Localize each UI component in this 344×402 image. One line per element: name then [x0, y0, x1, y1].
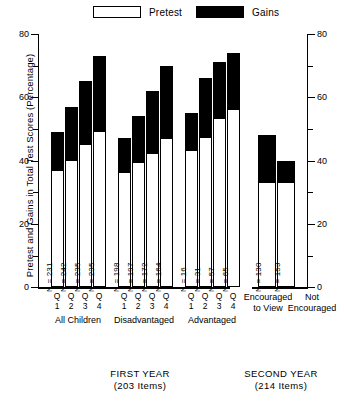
y-tick-right-0 — [308, 287, 315, 288]
x-tick-sub-label: 1 — [117, 302, 131, 312]
bar-advantaged-q3 — [213, 62, 226, 287]
y-tick-label-left-40: 40 — [15, 157, 29, 166]
bar-gain-advantaged-q3 — [213, 62, 226, 119]
category-label-not-encouraged: Not Encouraged — [284, 292, 340, 314]
n-label-not-encouraged: N = 153 — [273, 262, 282, 292]
y-minor-tick-left-50 — [33, 129, 38, 130]
y-tick-label-left-60: 60 — [15, 93, 29, 102]
y-tick-left-0 — [31, 287, 38, 288]
bar-gain-all-children-q2 — [65, 107, 78, 161]
n-label-all-children-q3: N = 235 — [73, 262, 82, 292]
x-tick-all-children-q2: Q 2 — [64, 292, 78, 311]
x-tick-disadvantaged-q3: Q 3 — [145, 292, 159, 311]
y-tick-label-right-60: 60 — [317, 93, 327, 102]
bar-disadvantaged-q3 — [146, 91, 159, 287]
y-tick-right-80 — [308, 34, 315, 35]
y-tick-left-80 — [31, 34, 38, 35]
bar-all-children-q3 — [79, 81, 92, 287]
n-label-advantaged-q4: N = 65 — [221, 267, 230, 292]
chart-legend: Pretest Gains — [0, 4, 344, 26]
y-minor-tick-right-10 — [308, 256, 313, 257]
category-label-line2: Encouraged — [284, 303, 340, 314]
category-label-line1: Not — [284, 292, 340, 303]
y-tick-label-left-20: 20 — [15, 220, 29, 229]
panel-caption-subtitle: (203 Items) — [85, 380, 195, 392]
panel-caption-second-year: SECOND YEAR (214 Items) — [222, 368, 340, 392]
bar-gain-advantaged-q4 — [227, 53, 240, 110]
bar-advantaged-q1 — [185, 113, 198, 287]
n-label-all-children-q2: N = 242 — [59, 262, 68, 292]
n-label-disadvantaged-q4: N = 164 — [154, 262, 163, 292]
y-axis-left-line — [38, 34, 39, 288]
x-tick-sub-label: 3 — [145, 302, 159, 312]
y-minor-tick-right-50 — [308, 129, 313, 130]
bar-gain-all-children-q1 — [51, 132, 64, 171]
n-label-advantaged-q1: N = 16 — [179, 267, 188, 292]
x-tick-sub-label: 1 — [184, 302, 198, 312]
y-tick-label-right-80: 80 — [317, 30, 327, 39]
y-tick-left-20 — [31, 224, 38, 225]
y-minor-tick-right-70 — [308, 66, 313, 67]
x-tick-sub-label: 1 — [50, 302, 64, 312]
x-tick-sub-label: 3 — [78, 302, 92, 312]
n-label-encouraged-to-view: N = 130 — [254, 262, 263, 292]
y-tick-label-right-0: 0 — [317, 283, 322, 292]
legend-item-gains: Gains — [196, 6, 279, 18]
bar-gain-disadvantaged-q3 — [146, 91, 159, 154]
y-tick-label-right-20: 20 — [317, 220, 327, 229]
bar-gain-all-children-q3 — [79, 81, 92, 145]
bar-gain-all-children-q4 — [93, 56, 106, 132]
x-tick-all-children-q3: Q 3 — [78, 292, 92, 311]
y-minor-tick-left-70 — [33, 66, 38, 67]
n-label-all-children-q1: N = 231 — [45, 262, 54, 292]
y-minor-tick-left-30 — [33, 192, 38, 193]
legend-item-pretest: Pretest — [93, 6, 182, 18]
legend-swatch-pretest — [93, 6, 141, 18]
x-tick-sub-label: 4 — [92, 302, 106, 312]
x-tick-advantaged-q3: Q 3 — [212, 292, 226, 311]
n-label-disadvantaged-q2: N = 197 — [126, 262, 135, 292]
panel-caption-subtitle: (214 Items) — [222, 380, 340, 392]
bar-gain-encouraged-to-view — [258, 135, 276, 183]
x-tick-sub-label: 3 — [212, 302, 226, 312]
chart-figure: Pretest Gains Pretest and Gains in Total… — [0, 0, 344, 402]
y-tick-label-left-80: 80 — [15, 30, 29, 39]
legend-swatch-gains — [196, 6, 244, 18]
bar-gain-disadvantaged-q4 — [160, 66, 173, 139]
x-tick-sub-label: 2 — [198, 302, 212, 312]
group-label-advantaged: Advantaged — [172, 315, 252, 325]
n-label-all-children-q4: N = 235 — [87, 262, 96, 292]
n-label-advantaged-q2: N = 31 — [193, 267, 202, 292]
n-label-disadvantaged-q1: N = 198 — [112, 262, 121, 292]
x-tick-sub-label: 2 — [64, 302, 78, 312]
x-tick-all-children-q1: Q 1 — [50, 292, 64, 311]
y-tick-label-left-0: 0 — [15, 283, 29, 292]
bar-advantaged-q2 — [199, 78, 212, 287]
y-tick-right-40 — [308, 161, 315, 162]
panel-caption-title: SECOND YEAR — [222, 368, 340, 380]
x-tick-sub-label: 4 — [159, 302, 173, 312]
y-tick-label-right-40: 40 — [317, 157, 327, 166]
bar-gain-advantaged-q1 — [185, 113, 198, 151]
annotation-dot-advantaged — [216, 150, 219, 153]
legend-label-gains: Gains — [252, 7, 279, 18]
x-tick-disadvantaged-q4: Q 4 — [159, 292, 173, 311]
bar-disadvantaged-q4 — [160, 66, 173, 287]
y-tick-left-40 — [31, 161, 38, 162]
x-tick-advantaged-q2: Q 2 — [198, 292, 212, 311]
bar-advantaged-q4 — [227, 53, 240, 287]
x-tick-disadvantaged-q2: Q 2 — [131, 292, 145, 311]
x-tick-sub-label: 2 — [131, 302, 145, 312]
x-tick-all-children-q4: Q 4 — [92, 292, 106, 311]
bar-gain-disadvantaged-q2 — [132, 116, 145, 163]
y-tick-right-20 — [308, 224, 315, 225]
bar-all-children-q2 — [65, 107, 78, 287]
bar-gain-disadvantaged-q1 — [118, 138, 131, 173]
panel-caption-title: FIRST YEAR — [85, 368, 195, 380]
bar-gain-advantaged-q2 — [199, 78, 212, 138]
n-label-advantaged-q3: N = 57 — [207, 267, 216, 292]
x-tick-disadvantaged-q1: Q 1 — [117, 292, 131, 311]
y-minor-tick-right-30 — [308, 192, 313, 193]
x-tick-advantaged-q4: Q 4 — [226, 292, 240, 311]
x-tick-advantaged-q1: Q 1 — [184, 292, 198, 311]
